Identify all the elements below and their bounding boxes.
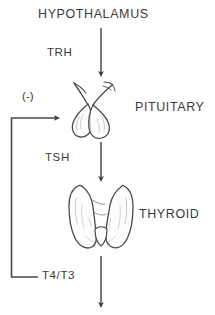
organ-label-thyroid: THYROID (139, 208, 199, 221)
organ-label-hypothalamus: HYPOTHALAMUS (38, 8, 149, 21)
hormone-label-trh: TRH (47, 47, 72, 59)
feedback-loop-negative (12, 118, 58, 277)
hormone-label-t4-t3: T4/T3 (42, 270, 75, 282)
negative-feedback-label: (-) (22, 91, 34, 103)
pituitary-gland-icon (72, 82, 115, 138)
organ-label-pituitary: PITUITARY (135, 101, 205, 114)
hpt-axis-diagram: HYPOTHALAMUS PITUITARY THYROID TRH TSH T… (0, 0, 215, 315)
thyroid-gland-icon (69, 185, 133, 248)
hormone-label-tsh: TSH (45, 152, 70, 164)
diagram-artwork-layer (0, 0, 215, 315)
